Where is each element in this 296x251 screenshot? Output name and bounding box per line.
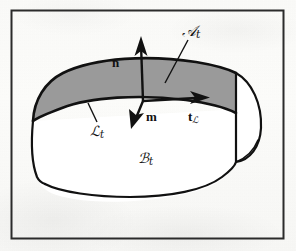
normal-vector-label: n <box>112 56 119 69</box>
body-label-sub: t <box>149 156 153 167</box>
tangent-vector-label: tℒ <box>188 110 198 125</box>
normal-vector-label-text: n <box>112 55 119 70</box>
body-label: ℬt <box>138 151 153 167</box>
figure-canvas <box>0 0 296 251</box>
conormal-vector-label: m <box>146 110 157 123</box>
surface-patch-label-letter: 𝒜 <box>182 22 196 40</box>
figure-page: 𝒜t ℒt ℬt n m tℒ <box>0 0 296 251</box>
body-label-letter: ℬ <box>138 150 149 166</box>
boundary-curve-label: ℒt <box>90 124 104 140</box>
boundary-curve-label-sub: t <box>100 129 104 140</box>
body-right-cap <box>236 73 261 162</box>
conormal-vector-label-text: m <box>146 109 157 124</box>
tangent-vector-label-sub: ℒ <box>192 115 198 125</box>
surface-patch-label: 𝒜t <box>182 24 200 41</box>
boundary-curve-label-letter: ℒ <box>90 123 100 139</box>
surface-patch-label-sub: t <box>196 28 200 41</box>
